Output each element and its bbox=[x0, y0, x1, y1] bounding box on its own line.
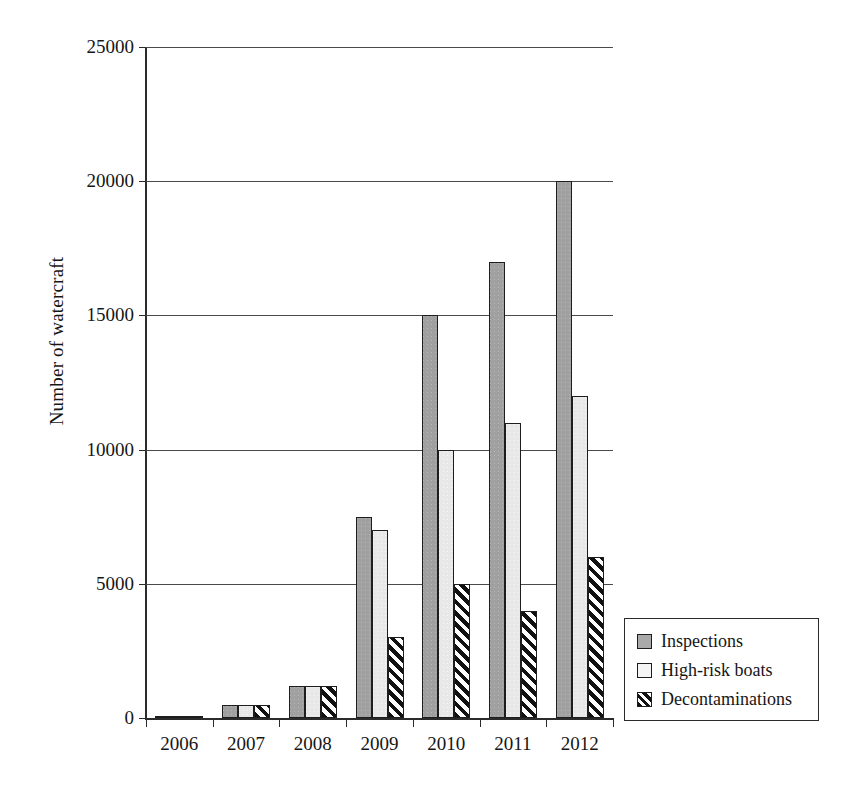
y-tick-label-5000: 5000 bbox=[96, 573, 134, 595]
bar-2009-high-risk-boats bbox=[372, 530, 388, 718]
plot-area: 0500010000150002000025000 20062007200820… bbox=[146, 47, 613, 718]
x-tick-mark-2011 bbox=[480, 718, 481, 727]
chart-legend: InspectionsHigh-risk boatsDecontaminatio… bbox=[624, 618, 819, 721]
gridline-25000 bbox=[146, 47, 613, 48]
bar-2012-decontaminations bbox=[588, 557, 604, 718]
bar-2008-high-risk-boats bbox=[305, 686, 321, 718]
x-tick-label-2006: 2006 bbox=[160, 733, 198, 755]
bar-2010-inspections bbox=[422, 315, 438, 718]
y-axis-line bbox=[145, 47, 147, 718]
diagonal-hatch-square-icon bbox=[637, 692, 652, 707]
y-tick-mark-25000 bbox=[139, 47, 146, 48]
y-tick-mark-0 bbox=[139, 718, 146, 719]
bar-2009-inspections bbox=[356, 517, 372, 718]
legend-item-inspections: Inspections bbox=[637, 627, 818, 656]
bar-2006-decontaminations bbox=[187, 716, 203, 718]
y-tick-mark-10000 bbox=[139, 450, 146, 451]
y-axis-title: Number of watercraft bbox=[46, 221, 68, 461]
x-tick-label-2008: 2008 bbox=[294, 733, 332, 755]
legend-item-high-risk-boats: High-risk boats bbox=[637, 656, 818, 685]
bar-2011-decontaminations bbox=[521, 611, 537, 718]
bar-2008-inspections bbox=[289, 686, 305, 718]
legend-label: Inspections bbox=[661, 631, 743, 652]
gridline-15000 bbox=[146, 315, 613, 316]
outlined-white-square-icon bbox=[637, 663, 652, 678]
gridline-20000 bbox=[146, 181, 613, 182]
bar-chart-figure: Number of watercraft 0500010000150002000… bbox=[0, 0, 864, 787]
x-tick-mark-2008 bbox=[279, 718, 280, 727]
bar-2007-inspections bbox=[222, 705, 238, 718]
x-tick-mark-2009 bbox=[346, 718, 347, 727]
legend-label: High-risk boats bbox=[661, 660, 773, 681]
y-tick-label-20000: 20000 bbox=[87, 170, 135, 192]
bar-2011-inspections bbox=[489, 262, 505, 718]
x-tick-mark-2006 bbox=[146, 718, 147, 727]
bar-2006-high-risk-boats bbox=[171, 716, 187, 718]
y-tick-mark-5000 bbox=[139, 584, 146, 585]
x-tick-label-2009: 2009 bbox=[361, 733, 399, 755]
bar-2011-high-risk-boats bbox=[505, 423, 521, 718]
y-tick-label-25000: 25000 bbox=[87, 36, 135, 58]
bar-2010-high-risk-boats bbox=[438, 450, 454, 718]
bar-2007-decontaminations bbox=[254, 705, 270, 718]
y-tick-label-0: 0 bbox=[125, 707, 135, 729]
bar-2007-high-risk-boats bbox=[238, 705, 254, 718]
bar-2006-inspections bbox=[155, 716, 171, 718]
y-tick-label-10000: 10000 bbox=[87, 439, 135, 461]
legend-label: Decontaminations bbox=[661, 689, 792, 710]
bar-2012-high-risk-boats bbox=[572, 396, 588, 718]
y-tick-label-15000: 15000 bbox=[87, 304, 135, 326]
solid-gray-square-icon bbox=[637, 634, 652, 649]
x-tick-label-2011: 2011 bbox=[494, 733, 531, 755]
y-tick-mark-15000 bbox=[139, 315, 146, 316]
bar-2010-decontaminations bbox=[454, 584, 470, 718]
x-axis-line bbox=[145, 718, 614, 720]
x-tick-label-2010: 2010 bbox=[427, 733, 465, 755]
x-tick-mark-end bbox=[613, 718, 614, 727]
bar-2009-decontaminations bbox=[388, 637, 404, 718]
legend-item-decontaminations: Decontaminations bbox=[637, 685, 818, 714]
y-tick-mark-20000 bbox=[139, 181, 146, 182]
x-tick-mark-2007 bbox=[213, 718, 214, 727]
x-tick-mark-2010 bbox=[413, 718, 414, 727]
gridline-10000 bbox=[146, 450, 613, 451]
x-tick-label-2012: 2012 bbox=[561, 733, 599, 755]
x-tick-label-2007: 2007 bbox=[227, 733, 265, 755]
bar-2012-inspections bbox=[556, 181, 572, 718]
bar-2008-decontaminations bbox=[321, 686, 337, 718]
x-tick-mark-2012 bbox=[546, 718, 547, 727]
